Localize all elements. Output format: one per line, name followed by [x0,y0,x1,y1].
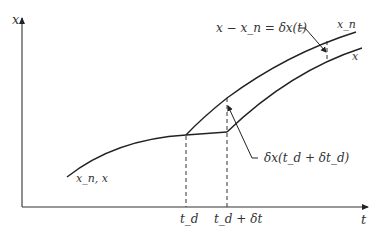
lower-curve-x [227,48,362,132]
tick-t-d-plus-dt: t_d + δt [214,212,262,226]
jump-variation-label: δx(t_d + δt_d) [264,151,350,165]
jump-leader-arrow [228,106,258,158]
tick-t-d: t_d [180,212,199,226]
variation-equation-label: x − x_n = δx(t) [216,21,307,35]
x-axis-label: t [361,212,367,227]
initial-curve [67,135,186,177]
lower-curve-label: x [352,50,359,63]
diagram-canvas: x t t_d t_d + δt x_n, x x_n x x − x_n = … [0,0,379,231]
upper-curve-xn [186,32,356,135]
y-axis-label: x [12,12,20,27]
initial-curve-label: x_n, x [76,172,109,185]
upper-curve-label: x_n [337,18,356,31]
kink-segment [186,132,227,135]
